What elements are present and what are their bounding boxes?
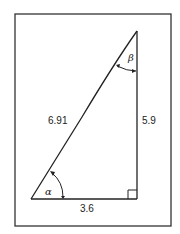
hypotenuse-side — [31, 31, 137, 199]
alpha-angle-arc — [50, 171, 65, 199]
triangle-diagram: 6.91 5.9 3.6 α β — [0, 0, 180, 234]
vertical-side-label: 5.9 — [142, 115, 156, 126]
arrowhead-icon — [132, 69, 136, 73]
horizontal-side-label: 3.6 — [80, 203, 94, 214]
triangle — [31, 31, 137, 199]
beta-angle-arc — [116, 64, 136, 73]
beta-label: β — [127, 52, 134, 63]
hypotenuse-label: 6.91 — [48, 115, 68, 126]
right-angle-marker — [128, 190, 137, 199]
alpha-label: α — [45, 186, 52, 197]
